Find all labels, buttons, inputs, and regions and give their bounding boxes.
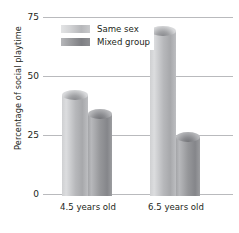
legend-item-same-sex: Same sex — [61, 24, 150, 34]
bar-mixed-group-4-5-years — [88, 109, 112, 196]
y-tick-label-75: 75 — [28, 12, 39, 22]
y-tick-label-25: 25 — [28, 130, 39, 140]
y-axis-title: Percentage of social playtime — [13, 3, 23, 173]
x-category-label-4-5-years: 4.5 years old — [60, 202, 116, 212]
legend-item-mixed-group: Mixed group — [61, 37, 150, 47]
legend-swatch-icon-mixed-group — [61, 38, 90, 46]
bar-body — [176, 137, 200, 196]
legend-label-same-sex: Same sex — [97, 24, 139, 34]
bar-mixed-group-6-5-years — [176, 132, 200, 196]
bar-body — [88, 114, 112, 196]
bar-body — [62, 95, 88, 196]
legend-label-mixed-group: Mixed group — [97, 37, 150, 47]
bar-chart: Percentage of social playtime 75 50 25 0 — [0, 0, 239, 233]
gridline-75: 75 — [43, 17, 233, 18]
x-category-label-6-5-years: 6.5 years old — [148, 202, 204, 212]
y-tick-label-50: 50 — [28, 71, 39, 81]
bar-body — [150, 31, 176, 196]
bar-cap — [88, 109, 112, 119]
gridline-50: 50 — [43, 76, 233, 77]
legend: Same sex Mixed group — [57, 22, 154, 50]
y-tick-label-0: 0 — [33, 189, 39, 199]
bar-same-sex-6-5-years — [150, 26, 176, 196]
legend-swatch-icon-same-sex — [61, 25, 90, 33]
bar-cap — [62, 90, 88, 100]
bar-same-sex-4-5-years — [62, 90, 88, 196]
